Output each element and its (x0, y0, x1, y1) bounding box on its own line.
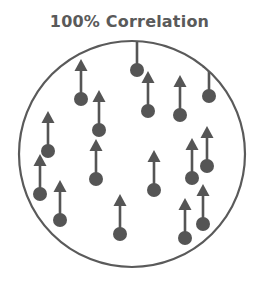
particle (185, 138, 199, 185)
particle (33, 154, 47, 201)
particle (196, 184, 210, 231)
particle-dot (89, 172, 103, 186)
particle (89, 139, 103, 186)
particle (113, 194, 127, 241)
particle-dot (113, 227, 127, 241)
particle-dot (202, 89, 216, 103)
arrow-up-icon (75, 59, 88, 71)
particle-dot (130, 63, 144, 77)
particle-dot (196, 217, 210, 231)
particle (173, 75, 187, 122)
particle (202, 56, 216, 103)
particle-dot (147, 183, 161, 197)
particle (53, 180, 67, 227)
arrow-up-icon (179, 198, 192, 210)
particle-dot (173, 108, 187, 122)
arrow-up-icon (54, 180, 67, 192)
arrow-up-icon (201, 126, 214, 138)
arrow-up-icon (197, 184, 210, 196)
particle (130, 30, 144, 77)
particle-dot (53, 213, 67, 227)
particle-dot (41, 144, 55, 158)
arrow-up-icon (114, 194, 127, 206)
particle (200, 126, 214, 173)
particle (92, 90, 106, 137)
arrow-up-icon (42, 111, 55, 123)
particle-dot (178, 231, 192, 245)
particle (178, 198, 192, 245)
arrow-up-icon (186, 138, 199, 150)
particle (74, 59, 88, 106)
particle-dot (185, 171, 199, 185)
particle-dot (141, 104, 155, 118)
particle-dot (74, 92, 88, 106)
particle (41, 111, 55, 158)
arrow-up-icon (142, 71, 155, 83)
correlation-diagram (0, 0, 259, 283)
arrow-up-icon (93, 90, 106, 102)
particles-group (33, 30, 216, 245)
particle-dot (200, 159, 214, 173)
arrow-up-icon (90, 139, 103, 151)
particle-dot (92, 123, 106, 137)
arrow-up-icon (148, 150, 161, 162)
arrow-up-icon (174, 75, 187, 87)
particle-dot (33, 187, 47, 201)
particle (141, 71, 155, 118)
particle (147, 150, 161, 197)
